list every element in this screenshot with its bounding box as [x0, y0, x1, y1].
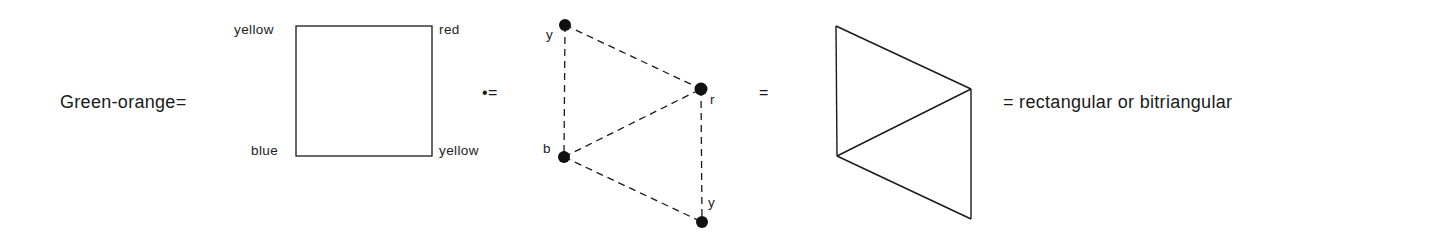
graph-edge-y-b [564, 25, 565, 157]
graph-edge-r-y [701, 89, 702, 222]
solid-edge-bottom [837, 156, 971, 219]
diagram-canvas [0, 0, 1435, 247]
graph-edge-b-y [564, 157, 702, 222]
solid-edge-top [836, 26, 971, 89]
graph-node-r [695, 83, 708, 96]
solid-edge-left [836, 26, 837, 156]
graph-node-y-bottom [696, 216, 708, 228]
graph-node-b [558, 151, 570, 163]
color-square [296, 26, 432, 156]
solid-figure [836, 26, 971, 219]
graph-edge-y-r [565, 25, 701, 89]
graph-node-y-top [559, 19, 571, 31]
graph-edges [564, 25, 702, 222]
graph-edge-b-r [564, 89, 701, 157]
solid-edge-diagonal [837, 89, 971, 156]
